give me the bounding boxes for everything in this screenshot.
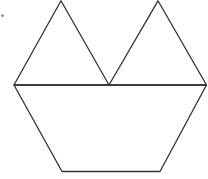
left-triangle (14, 1, 109, 85)
right-triangle (109, 1, 207, 85)
bullet-dot (1, 14, 4, 17)
trapezoid (14, 85, 207, 172)
hexagon-diagram (0, 0, 208, 179)
